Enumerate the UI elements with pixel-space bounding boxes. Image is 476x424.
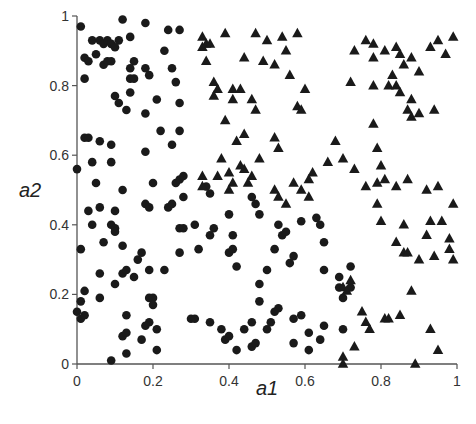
circle-marker (210, 224, 219, 233)
circle-marker (263, 266, 272, 275)
circle-marker (88, 36, 97, 45)
triangle-marker (220, 28, 231, 38)
x-tick-label: 0.8 (371, 373, 391, 389)
circle-marker (145, 266, 154, 275)
circle-marker (282, 227, 291, 236)
circle-marker (126, 88, 135, 97)
circle-marker (122, 328, 131, 337)
circle-marker (175, 127, 184, 136)
circle-marker (320, 321, 329, 330)
triangle-marker (440, 49, 451, 59)
triangle-marker (247, 94, 257, 104)
triangle-marker (258, 56, 269, 66)
circle-marker (175, 26, 184, 35)
triangle-marker (357, 306, 368, 316)
circle-marker (339, 294, 348, 303)
circle-marker (206, 318, 215, 327)
triangle-marker (425, 324, 436, 334)
circle-marker (88, 158, 97, 167)
triangle-marker (330, 136, 341, 146)
x-axis-label: a1 (256, 377, 278, 399)
circle-marker (122, 106, 131, 115)
circle-marker (339, 325, 348, 334)
circle-marker (137, 335, 146, 344)
circle-marker (179, 224, 188, 233)
triangle-marker (380, 174, 391, 184)
circle-marker (297, 311, 306, 320)
circle-marker (346, 262, 355, 271)
circle-marker (77, 297, 86, 306)
triangle-marker (201, 56, 212, 66)
circle-marker (107, 158, 116, 167)
circle-marker (179, 193, 188, 202)
circle-marker (80, 287, 89, 296)
circle-marker (274, 221, 283, 230)
triangle-marker (448, 198, 459, 208)
triangle-marker (448, 254, 459, 264)
circle-marker (126, 64, 135, 73)
triangle-marker (376, 160, 387, 170)
triangle-marker (410, 358, 421, 368)
triangle-marker (349, 45, 360, 55)
triangle-marker (235, 83, 246, 93)
circle-marker (248, 318, 257, 327)
circle-marker (149, 179, 158, 188)
triangle-marker (216, 153, 227, 163)
y-tick-label: 0.6 (50, 147, 70, 163)
triangle-marker (372, 143, 383, 153)
circle-marker (130, 273, 139, 282)
triangle-marker (323, 156, 334, 166)
circle-marker (77, 245, 86, 254)
y-tick-label: 0 (61, 356, 69, 372)
triangle-marker (444, 243, 455, 253)
circle-marker (111, 280, 120, 289)
circle-marker (172, 78, 181, 87)
circle-marker (77, 22, 86, 31)
circle-marker (168, 64, 177, 73)
circle-marker (206, 189, 215, 198)
circle-marker (335, 273, 344, 282)
x-tick-label: 0.4 (219, 373, 239, 389)
triangle-marker (368, 118, 379, 128)
triangle-marker (269, 132, 280, 142)
triangle-marker (262, 35, 273, 45)
triangle-marker (250, 104, 261, 114)
x-tick-label: 1 (453, 373, 461, 389)
triangle-marker (414, 108, 425, 118)
triangle-marker (391, 181, 402, 191)
x-tick-label: 0 (73, 373, 81, 389)
circle-marker (191, 221, 200, 230)
circle-marker (107, 57, 116, 66)
circle-points (73, 15, 355, 365)
circle-marker (122, 349, 131, 358)
triangle-marker (433, 35, 444, 45)
circle-marker (156, 127, 165, 136)
triangle-marker (368, 52, 379, 62)
circle-marker (232, 262, 241, 271)
circle-marker (251, 339, 260, 348)
circle-marker (96, 269, 105, 278)
triangle-marker (239, 52, 250, 62)
circle-marker (175, 99, 184, 108)
triangle-marker (349, 341, 360, 351)
circle-marker (141, 147, 150, 156)
circle-marker (141, 321, 150, 330)
circle-marker (111, 227, 120, 236)
circle-marker (130, 74, 139, 83)
triangle-marker (361, 35, 372, 45)
circle-marker (118, 15, 127, 24)
circle-marker (229, 245, 238, 254)
circle-marker (316, 221, 325, 230)
circle-marker (255, 280, 264, 289)
circle-marker (320, 238, 329, 247)
circle-marker (168, 200, 177, 209)
triangle-marker (429, 250, 440, 260)
triangle-marker (273, 143, 284, 153)
circle-marker (73, 165, 82, 174)
circle-marker (153, 346, 162, 355)
circle-marker (126, 33, 135, 42)
triangle-marker (277, 31, 288, 41)
triangle-points (197, 28, 458, 368)
circle-marker (217, 325, 226, 334)
circle-marker (92, 50, 101, 59)
